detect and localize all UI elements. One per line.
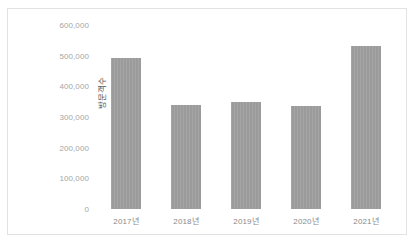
y-axis-title: 방문객수 [95, 28, 107, 158]
y-axis-tick-label: 500,000 [59, 51, 89, 60]
y-axis-tick-label: 300,000 [59, 113, 89, 122]
bar[interactable] [231, 102, 261, 209]
x-axis-tick-label: 2018년 [173, 215, 198, 226]
bar[interactable] [291, 106, 321, 209]
y-axis-tick-label: 100,000 [59, 174, 89, 183]
bar-slot [231, 25, 261, 209]
bar-slot [351, 25, 381, 209]
bar-slot [111, 25, 141, 209]
y-axis-tick-label: 0 [84, 205, 89, 214]
x-axis-tick-label: 2021년 [353, 215, 378, 226]
y-axis-tick-label: 200,000 [59, 143, 89, 152]
bar[interactable] [171, 105, 201, 209]
bar-slot [291, 25, 321, 209]
plot-area: 방문객수 0100,000200,000300,000400,000500,00… [96, 25, 396, 209]
bar-slot [171, 25, 201, 209]
bar[interactable] [111, 58, 141, 209]
x-axis-tick-label: 2017년 [113, 215, 138, 226]
y-axis-tick-label: 600,000 [59, 21, 89, 30]
y-axis-tick-label: 400,000 [59, 82, 89, 91]
x-axis-tick-label: 2019년 [233, 215, 258, 226]
chart-frame: 방문객수 0100,000200,000300,000400,000500,00… [7, 8, 407, 235]
bar[interactable] [351, 46, 381, 209]
x-axis-tick-label: 2020년 [293, 215, 318, 226]
